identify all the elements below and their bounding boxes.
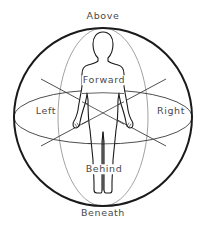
label-beneath: Beneath bbox=[81, 208, 125, 218]
label-above: Above bbox=[87, 11, 120, 21]
label-forward: Forward bbox=[82, 75, 126, 85]
label-left: Left bbox=[36, 106, 56, 116]
label-right: Right bbox=[157, 106, 185, 116]
label-behind: Behind bbox=[85, 164, 124, 174]
